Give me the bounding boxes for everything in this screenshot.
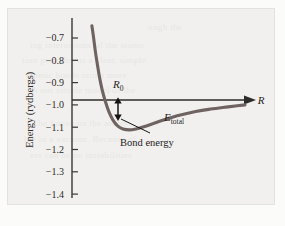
y-axis-ticks (72, 38, 78, 194)
y-axis-tick-label: −1.0 (46, 99, 64, 110)
equilibrium-separation-label: R0 (112, 78, 124, 93)
potential-energy-chart: −0.7−0.8−0.9−1.0−1.1−1.2−1.3−1.4 Energy … (0, 0, 285, 226)
y-axis-tick-label: −0.7 (46, 32, 64, 43)
dissociation-reference-line: R (72, 94, 265, 106)
x-axis-label-R: R (257, 94, 265, 106)
y-axis-tick-label: −0.8 (46, 55, 64, 66)
y-axis-tick-label: −1.4 (46, 189, 64, 200)
y-axis: −0.7−0.8−0.9−1.0−1.1−1.2−1.3−1.4 (46, 18, 78, 200)
bond-energy-label: Bond energy (120, 137, 175, 148)
bond-energy-callout: Bond energy (120, 119, 175, 148)
bond-energy-arrow (114, 97, 121, 121)
equilibrium-separation-subscript: 0 (120, 84, 124, 93)
r-axis-arrowhead (244, 96, 256, 105)
bond-energy-arrowhead-down (114, 115, 121, 121)
y-axis-tick-label: −1.1 (46, 122, 64, 133)
figure-container: ough theing interactions of the atomstio… (0, 0, 285, 226)
y-axis-tick-label: −1.2 (46, 144, 64, 155)
total-energy-label: Etotal (163, 111, 184, 126)
y-axis-tick-label: −0.9 (46, 77, 64, 88)
total-energy-subscript: total (171, 117, 184, 126)
y-axis-tick-labels: −0.7−0.8−0.9−1.0−1.1−1.2−1.3−1.4 (46, 32, 64, 199)
y-axis-tick-label: −1.3 (46, 166, 64, 177)
y-axis-title: Energy (rydbergs) (24, 71, 36, 148)
